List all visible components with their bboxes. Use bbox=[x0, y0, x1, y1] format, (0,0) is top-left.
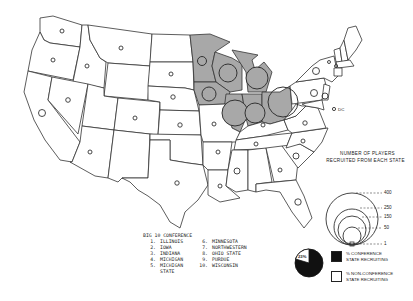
state-connecticut bbox=[334, 68, 342, 76]
member-name: WISCONSIN bbox=[212, 263, 238, 275]
scale-tick-50: 50 bbox=[384, 225, 389, 230]
states-west bbox=[24, 16, 160, 182]
state-maine bbox=[344, 26, 362, 60]
dc-label: DC bbox=[338, 107, 344, 112]
conference-list: BIG 10 CONFERENCE 1.ILLINOIS 6.MINNESOTA… bbox=[143, 233, 247, 275]
nonconference-swatch bbox=[331, 271, 342, 282]
state-north-dakota bbox=[150, 34, 193, 62]
member-name: MICHIGAN STATE bbox=[160, 263, 195, 275]
state-wyoming bbox=[104, 63, 150, 100]
state-colorado bbox=[114, 98, 160, 135]
scale-tick-150: 150 bbox=[384, 214, 392, 219]
scale-legend-title-line2: RECRUITED FROM EACH STATE bbox=[318, 158, 413, 163]
states-south bbox=[199, 104, 328, 228]
conference-key: % CONFERENCE STATE RECRUITING bbox=[346, 251, 388, 263]
state-new-york bbox=[296, 56, 338, 82]
nonconference-key: % NON-CONFERENCE STATE RECRUITING bbox=[346, 271, 393, 283]
dc-circle bbox=[332, 107, 335, 110]
scale-legend-circles bbox=[326, 193, 382, 246]
state-florida bbox=[256, 180, 312, 228]
scale-tick-1: 1 bbox=[384, 241, 387, 246]
state-new-mexico bbox=[108, 130, 150, 182]
scale-legend-title-line1: NUMBER OF PLAYERS bbox=[322, 151, 413, 156]
conference-swatch bbox=[331, 251, 342, 262]
scale-tick-400: 400 bbox=[384, 190, 392, 195]
scale-tick-250: 250 bbox=[384, 205, 392, 210]
conference-row: 5.MICHIGAN STATE 10.WISCONSIN bbox=[143, 263, 247, 275]
state-arkansas bbox=[203, 142, 232, 170]
states-northeast bbox=[290, 26, 362, 110]
pie-percent-label: 23% bbox=[298, 254, 306, 259]
